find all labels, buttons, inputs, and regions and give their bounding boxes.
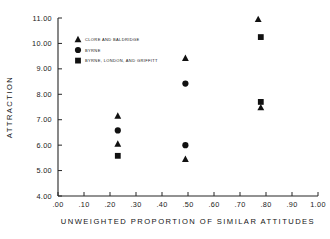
legend-circle-marker <box>75 47 81 53</box>
square-marker <box>258 34 264 40</box>
x-tick-label: .40 <box>156 200 167 209</box>
circle-marker <box>182 81 188 87</box>
square-marker <box>115 153 121 159</box>
legend-square-marker <box>75 58 81 64</box>
y-tick-label: 4.00 <box>36 192 52 201</box>
x-tick-label: .00 <box>52 200 63 209</box>
legend-label: CLORE AND BALDRIDGE <box>85 37 140 42</box>
legend-label: BYRNE <box>85 48 101 53</box>
triangle-marker <box>182 156 189 162</box>
triangle-marker <box>257 104 264 110</box>
y-tick-label: 8.00 <box>36 90 52 99</box>
y-tick-label: 11.00 <box>33 14 52 23</box>
x-tick-label: .10 <box>78 200 89 209</box>
triangle-marker <box>114 112 121 118</box>
square-marker <box>258 99 264 105</box>
y-tick-label: 6.00 <box>36 141 52 150</box>
circle-marker <box>115 127 121 133</box>
y-tick-label: 7.00 <box>36 115 52 124</box>
x-tick-label: 1.00 <box>310 200 326 209</box>
x-tick-label: .90 <box>286 200 297 209</box>
x-axis-title: UNWEIGHTED PROPORTION OF SIMILAR ATTITUD… <box>61 217 315 226</box>
x-tick-label: .30 <box>130 200 141 209</box>
plot-canvas: 4.005.006.007.008.009.0010.0011.00.00.10… <box>0 0 330 239</box>
legend: CLORE AND BALDRIDGEBYRNEBYRNE, LONDON, A… <box>75 36 159 64</box>
circle-marker <box>182 142 188 148</box>
x-tick-label: .60 <box>208 200 219 209</box>
y-tick-label: 9.00 <box>36 64 52 73</box>
legend-triangle-marker <box>75 36 82 42</box>
x-tick-label: .50 <box>182 200 193 209</box>
triangle-marker <box>114 140 121 146</box>
series-1 <box>115 81 189 149</box>
y-tick-label: 10.00 <box>32 39 52 48</box>
y-tick-label: 5.00 <box>36 166 52 175</box>
y-axis-title: ATTRACTION <box>5 76 14 138</box>
triangle-marker <box>182 55 189 61</box>
scatter-plot-figure: 4.005.006.007.008.009.0010.0011.00.00.10… <box>0 0 330 239</box>
x-tick-label: .80 <box>260 200 271 209</box>
series-2 <box>115 34 264 159</box>
legend-label: BYRNE, LONDON, AND GRIFFITT <box>85 58 158 63</box>
x-tick-label: .70 <box>234 200 245 209</box>
x-tick-label: .20 <box>104 200 115 209</box>
triangle-marker <box>255 16 262 22</box>
